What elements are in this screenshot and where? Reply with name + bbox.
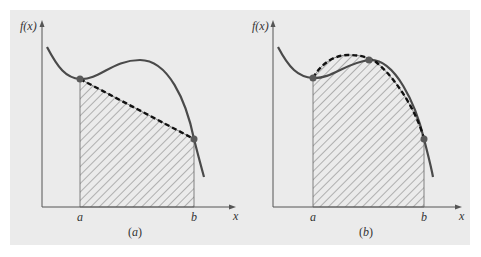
- point-midpoint: [366, 57, 373, 64]
- point-fb: [191, 136, 198, 143]
- caption-b: (b): [359, 226, 373, 238]
- figure-graphics: [0, 0, 481, 257]
- point-fb: [421, 136, 428, 143]
- x-axis-label-a: x: [233, 210, 238, 222]
- panel-a: [40, 20, 237, 210]
- caption-a: (a): [128, 226, 142, 238]
- upper-limit-label-a: b: [191, 211, 197, 223]
- point-fa: [310, 75, 317, 82]
- upper-limit-label-b: b: [421, 211, 427, 223]
- y-axis-arrow: [271, 20, 276, 27]
- trapezoid-area: [80, 79, 194, 207]
- simpson-area: [313, 55, 424, 207]
- y-axis-arrow: [40, 20, 45, 27]
- y-axis-label-a: f(x): [20, 20, 37, 32]
- y-axis-label-b: f(x): [252, 20, 269, 32]
- panel-b: [271, 20, 463, 210]
- lower-limit-label-a: a: [77, 211, 83, 223]
- point-fa: [77, 76, 84, 83]
- lower-limit-label-b: a: [310, 211, 316, 223]
- x-axis-label-b: x: [459, 210, 464, 222]
